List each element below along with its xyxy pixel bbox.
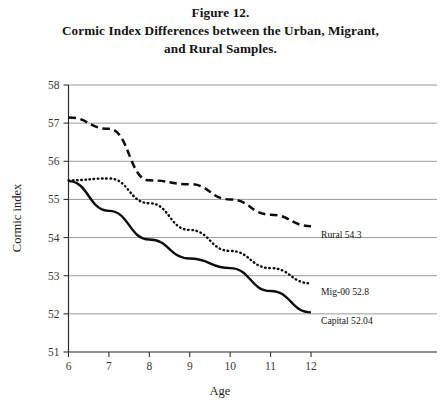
series-end-label-mig-00: Mig-00 52.8	[321, 286, 369, 297]
chart-plot: 5152535455565758 6789101112 Rural 54.3Mi…	[0, 0, 441, 419]
x-tick-label: 12	[305, 360, 317, 372]
y-axis-ticks: 5152535455565758	[48, 79, 69, 358]
series-line-capital	[69, 181, 312, 312]
y-tick-label: 56	[48, 155, 60, 167]
x-axis-ticks: 6789101112	[66, 352, 317, 372]
x-axis-title: Age	[210, 384, 231, 398]
figure-container: Figure 12. Cormic Index Differences betw…	[0, 0, 441, 419]
y-axis-title: Cormic index	[10, 183, 24, 252]
series-end-label-capital: Capital 52.04	[321, 315, 373, 326]
y-tick-label: 55	[48, 193, 60, 205]
y-tick-label: 52	[48, 308, 60, 320]
y-tick-label: 58	[48, 79, 60, 91]
x-tick-label: 8	[146, 360, 152, 372]
x-tick-label: 6	[66, 360, 72, 372]
series-end-labels: Rural 54.3Mig-00 52.8Capital 52.04	[321, 229, 373, 326]
y-tick-label: 53	[48, 270, 60, 282]
x-tick-label: 9	[187, 360, 193, 372]
series-line-mig-00	[69, 178, 312, 283]
data-series	[69, 117, 312, 312]
y-tick-label: 54	[48, 232, 60, 244]
y-tick-label: 57	[48, 117, 60, 129]
gridlines	[69, 85, 438, 314]
x-tick-label: 10	[224, 360, 236, 372]
x-tick-label: 11	[265, 360, 276, 372]
series-end-label-rural: Rural 54.3	[321, 229, 362, 240]
y-tick-label: 51	[48, 346, 60, 358]
x-tick-label: 7	[106, 360, 112, 372]
